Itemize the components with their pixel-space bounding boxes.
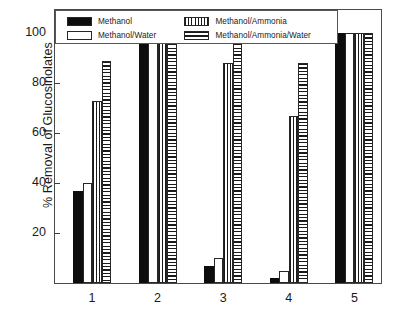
legend-entry: Methanol	[56, 14, 181, 28]
plot-area: 20406080100 12345	[54, 9, 382, 284]
legend-row: Methanol/WaterMethanol/Ammonia/Water	[56, 28, 337, 42]
x-tick-label: 2	[138, 291, 178, 305]
legend-label: Methanol/Water	[98, 31, 156, 40]
legend-swatch-icon	[67, 31, 92, 40]
y-tick-label: 100	[6, 25, 46, 39]
bar	[92, 101, 102, 284]
bar	[167, 33, 177, 283]
bar	[354, 33, 364, 283]
chart-legend: MethanolMethanol/AmmoniaMethanol/WaterMe…	[55, 10, 338, 44]
legend-row: MethanolMethanol/Ammonia	[56, 14, 337, 28]
chart-figure: % Removal of Glucosinolates 20406080100 …	[0, 0, 393, 312]
y-tick-mark	[55, 133, 60, 134]
bar	[148, 33, 158, 283]
legend-entry: Methanol/Water	[56, 28, 181, 42]
legend-swatch-icon	[67, 17, 92, 26]
x-tick-label: 4	[269, 291, 309, 305]
bar	[335, 33, 345, 283]
legend-label: Methanol/Ammonia	[215, 17, 286, 26]
legend-entry: Methanol/Ammonia/Water	[181, 28, 337, 42]
legend-label: Methanol/Ammonia/Water	[215, 31, 310, 40]
bar	[298, 63, 308, 283]
bar	[139, 33, 149, 283]
bar	[364, 33, 374, 283]
bar	[223, 63, 233, 283]
bar	[158, 33, 168, 283]
bar	[289, 116, 299, 284]
bar	[73, 191, 83, 284]
x-tick-label: 5	[334, 291, 374, 305]
legend-swatch-icon	[184, 17, 209, 26]
y-tick-label: 80	[6, 75, 46, 89]
bar	[83, 183, 93, 283]
y-tick-mark	[55, 183, 60, 184]
bar	[204, 266, 214, 284]
y-tick-label: 40	[6, 175, 46, 189]
bar	[345, 33, 355, 283]
x-tick-label: 3	[203, 291, 243, 305]
bar	[279, 271, 289, 284]
legend-swatch-icon	[184, 31, 209, 40]
y-tick-label: 60	[6, 125, 46, 139]
bar	[270, 278, 280, 283]
legend-entry: Methanol/Ammonia	[181, 14, 337, 28]
y-tick-mark	[55, 233, 60, 234]
bar	[214, 258, 224, 283]
x-tick-label: 1	[72, 291, 112, 305]
y-tick-mark	[55, 83, 60, 84]
bar	[233, 33, 243, 283]
bar	[102, 61, 112, 284]
legend-label: Methanol	[98, 17, 132, 26]
y-tick-label: 20	[6, 225, 46, 239]
